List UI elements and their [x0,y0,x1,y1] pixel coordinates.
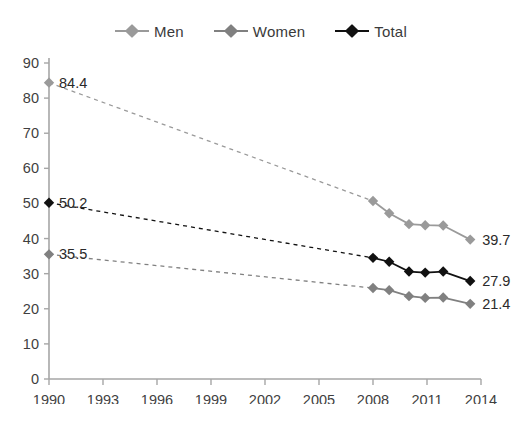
series-men-marker [44,77,54,87]
legend-item-total: Total [335,23,407,40]
series-total-marker [368,253,378,263]
legend-marker-men-icon [115,24,149,38]
series-women-marker [420,293,430,303]
series-men-dashed-segment [49,83,373,201]
series-total-dashed-segment [49,203,373,258]
series-total-marker [465,276,475,286]
y-axis-tick-label: 0 [31,371,39,387]
y-axis-tick-label: 50 [23,195,39,211]
series-men-marker [420,220,430,230]
y-axis-tick-label: 60 [23,160,39,176]
x-axis-tick-label: 1993 [87,392,119,404]
plot-area: 0102030405060708090199019931996199920022… [0,44,522,404]
y-axis-tick-label: 40 [23,231,39,247]
figure-caption [28,414,508,424]
x-axis-tick-label: 2008 [357,392,389,404]
series-men-marker [404,219,414,229]
x-axis-tick-label: 2005 [303,392,335,404]
y-axis-tick-label: 10 [23,336,39,352]
series-women-marker [44,249,54,259]
series-total-marker [44,198,54,208]
series-women-marker [404,291,414,301]
legend-label-men: Men [154,23,184,40]
series-men-line [373,201,470,240]
x-axis-tick-label: 2011 [411,392,442,404]
series-total-marker [404,266,414,276]
series-women-marker [465,299,475,309]
series-men-marker [465,234,475,244]
legend-marker-women-icon [214,24,248,38]
x-axis-tick-label: 1999 [195,392,227,404]
series-women-dashed-segment [49,254,373,288]
legend-label-total: Total [374,23,407,40]
series-total-start-label: 50.2 [59,195,87,211]
legend-marker-total-icon [335,24,369,38]
series-men-start-label: 84.4 [59,75,87,91]
x-axis-tick-label: 1996 [141,392,173,404]
line-chart: Men Women Total 010203040506070809019901… [0,0,522,426]
series-total-marker [420,267,430,277]
x-axis-tick-label: 2002 [249,392,281,404]
series-women-marker [368,283,378,293]
series-total-end-label: 27.9 [482,273,510,289]
x-axis-tick-label: 2014 [465,392,497,404]
y-axis-tick-label: 90 [23,55,39,71]
series-men-marker [438,220,448,230]
series-women-start-label: 35.5 [59,246,87,262]
series-women-end-label: 21.4 [482,296,510,312]
series-women-marker [384,285,394,295]
y-axis-tick-label: 80 [23,90,39,106]
series-men-end-label: 39.7 [482,232,510,248]
y-axis-tick-label: 20 [23,301,39,317]
legend-item-women: Women [214,23,305,40]
series-total-marker [384,257,394,267]
y-axis-tick-label: 70 [23,125,39,141]
series-women-marker [438,292,448,302]
chart-legend: Men Women Total [0,18,522,44]
series-total-marker [438,266,448,276]
legend-item-men: Men [115,23,184,40]
y-axis-tick-label: 30 [23,266,39,282]
legend-label-women: Women [253,23,305,40]
plot-svg: 0102030405060708090199019931996199920022… [0,44,522,404]
x-axis-tick-label: 1990 [33,392,65,404]
